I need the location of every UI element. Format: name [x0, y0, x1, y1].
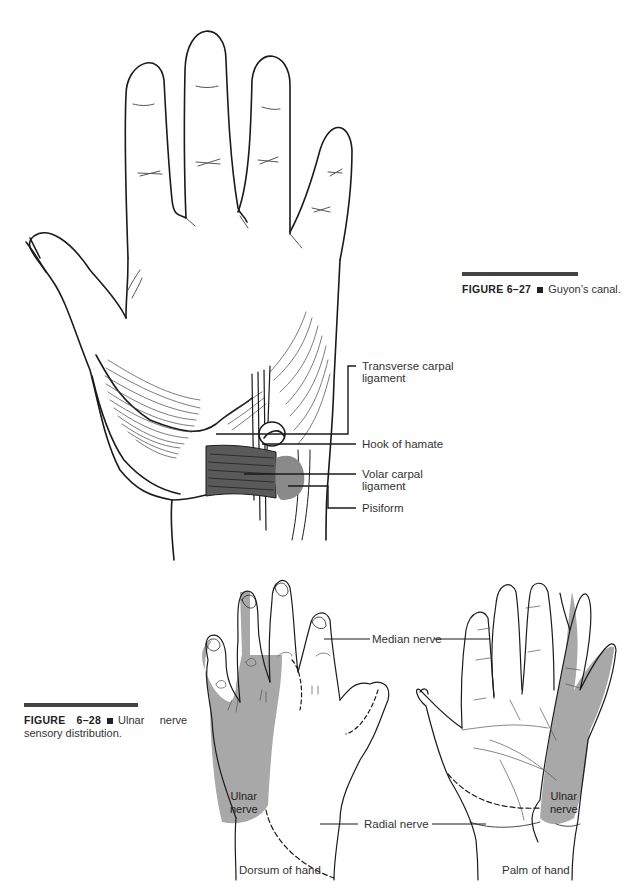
label-palm-of-hand: Palm of hand	[502, 864, 570, 876]
caption-figure-6-28: FIGURE 6–28Ulnar nerve sensory distribut…	[24, 714, 144, 740]
square-bullet-icon	[107, 718, 113, 724]
figure-title-line-2: sensory distribution.	[24, 727, 144, 740]
label-line: nerve	[230, 803, 258, 816]
label-dorsum-of-hand: Dorsum of hand	[239, 864, 321, 876]
label-line: Ulnar	[230, 790, 258, 803]
caption-line-1: FIGURE 6–28Ulnar nerve	[24, 714, 144, 727]
label-radial-nerve: Radial nerve	[364, 818, 429, 830]
label-ulnar-nerve-dorsum: Ulnar nerve	[230, 790, 258, 815]
figure-number: FIGURE	[24, 714, 65, 726]
ulnar-nerve-distribution-illustration	[0, 0, 636, 894]
figure-number-value: 6–28	[77, 714, 102, 726]
caption-rule-6-28	[24, 703, 138, 707]
figure-title-line-1: Ulnar nerve	[118, 714, 187, 726]
label-median-nerve: Median nerve	[372, 633, 442, 645]
label-ulnar-nerve-palm: Ulnar nerve	[550, 790, 578, 815]
label-line: Ulnar	[550, 790, 578, 803]
label-line: nerve	[550, 803, 578, 816]
